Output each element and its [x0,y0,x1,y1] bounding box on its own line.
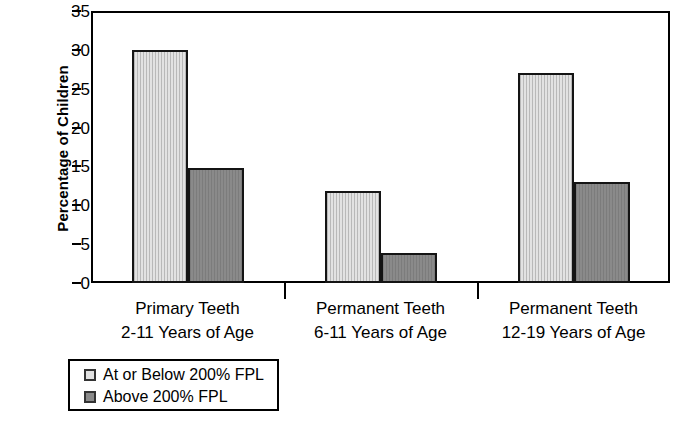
y-tick-label: 0 [44,275,90,292]
y-tick-label: 10 [44,197,90,214]
y-tick-mark [72,282,81,284]
y-tick-mark [72,127,81,129]
bar-at-or-below-200-fpl [325,191,381,283]
bars-layer [91,11,670,283]
bar-above-200-fpl [574,182,630,283]
y-tick-label: 30 [44,41,90,58]
y-tick-label: 5 [44,236,90,253]
bar-above-200-fpl [381,253,437,283]
bar-at-or-below-200-fpl [518,73,574,283]
y-tick-mark [72,49,81,51]
y-tick-mark [72,243,81,245]
y-tick-mark [72,88,81,90]
legend-item: Above 200% FPL [84,386,277,408]
y-tick-mark [72,165,81,167]
y-tick-label: 15 [44,158,90,175]
category-separator [284,283,286,299]
y-tick-label: 25 [44,80,90,97]
y-tick-mark [72,204,81,206]
x-category-label: Permanent Teeth12-19 Years of Age [477,297,670,345]
legend-item: At or Below 200% FPL [84,364,277,386]
chart-legend: At or Below 200% FPLAbove 200% FPL [68,359,279,411]
legend-swatch-light [84,369,96,381]
x-category-label-line1: Permanent Teeth [284,297,477,321]
x-category-label-line1: Permanent Teeth [477,297,670,321]
x-category-label: Permanent Teeth6-11 Years of Age [284,297,477,345]
x-category-label-line2: 6-11 Years of Age [284,321,477,345]
legend-label: At or Below 200% FPL [103,367,264,383]
x-category-label-line2: 2-11 Years of Age [91,321,284,345]
legend-label: Above 200% FPL [103,389,228,405]
category-separator [477,283,479,299]
bar-above-200-fpl [188,168,244,283]
x-category-label-line1: Primary Teeth [91,297,284,321]
y-tick-mark [72,10,81,12]
y-tick-label: 35 [44,3,90,20]
bar-at-or-below-200-fpl [132,50,188,283]
x-category-label: Primary Teeth2-11 Years of Age [91,297,284,345]
legend-swatch-dark [84,391,96,403]
y-tick-label: 20 [44,119,90,136]
bar-chart: Percentage of Children 05101520253035 Pr… [0,0,682,428]
x-axis-category-labels: Primary Teeth2-11 Years of AgePermanent … [91,297,670,355]
x-category-label-line2: 12-19 Years of Age [477,321,670,345]
